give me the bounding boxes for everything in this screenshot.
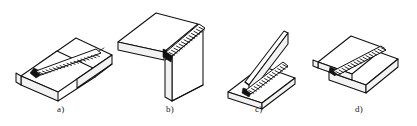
joint-a-butt bbox=[16, 38, 112, 101]
joint-a-left-end-face bbox=[16, 73, 21, 85]
joint-d-lap bbox=[313, 36, 398, 93]
caption-c: c) bbox=[255, 104, 262, 114]
joint-b-vertical-edge-face bbox=[165, 56, 172, 101]
caption-d: d) bbox=[355, 104, 363, 114]
joint-b-corner bbox=[118, 13, 205, 101]
joint-c-tee bbox=[228, 31, 295, 109]
welded-joints-figure: a) b) c) d) bbox=[0, 0, 417, 126]
caption-b: b) bbox=[166, 104, 174, 114]
joint-d-upper-left-face bbox=[313, 60, 318, 68]
caption-a: a) bbox=[57, 104, 64, 114]
